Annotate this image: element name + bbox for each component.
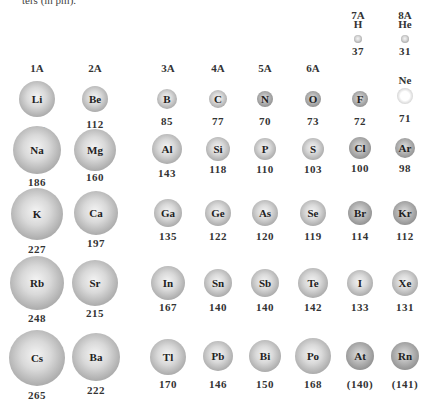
atomic-radius: 170 bbox=[159, 378, 177, 390]
atom-sphere: Xe bbox=[392, 270, 418, 296]
atom-sphere: Al bbox=[152, 134, 182, 164]
atom-sphere: Pb bbox=[203, 341, 233, 371]
caption-text: ters (in pm). bbox=[22, 0, 76, 6]
element-symbol: He bbox=[398, 18, 411, 30]
atom-sphere: Kr bbox=[393, 201, 417, 225]
atom-sphere: Rb bbox=[10, 256, 64, 310]
atom-sphere: Br bbox=[348, 201, 372, 225]
atom-sphere bbox=[401, 35, 409, 43]
atomic-radius: 135 bbox=[159, 230, 177, 242]
atomic-radius: (140) bbox=[347, 378, 373, 390]
atomic-radius: 85 bbox=[161, 115, 173, 127]
atomic-radius: 77 bbox=[212, 115, 224, 127]
atomic-radius: 119 bbox=[304, 230, 321, 242]
atomic-radius: 140 bbox=[209, 301, 227, 313]
atomic-radius: 133 bbox=[351, 301, 369, 313]
atomic-radius: 70 bbox=[259, 115, 271, 127]
atomic-radius: 72 bbox=[354, 115, 366, 127]
atomic-radius: 222 bbox=[87, 384, 105, 396]
atomic-radius: 167 bbox=[159, 301, 177, 313]
atom-sphere: Ga bbox=[154, 199, 182, 227]
atom-sphere: Li bbox=[19, 81, 55, 117]
atom-sphere: C bbox=[209, 90, 227, 108]
atom-sphere: As bbox=[252, 200, 278, 226]
atom-sphere: F bbox=[352, 91, 368, 107]
atom-sphere: Be bbox=[82, 86, 108, 112]
atom-sphere: Si bbox=[206, 137, 230, 161]
atomic-radius: 122 bbox=[209, 230, 227, 242]
group-label: 1A bbox=[30, 62, 43, 74]
atom-sphere: Na bbox=[13, 126, 61, 174]
atomic-radius: 120 bbox=[256, 230, 274, 242]
atomic-radius: 215 bbox=[86, 307, 104, 319]
atomic-radius: 197 bbox=[87, 237, 105, 249]
atom-sphere: K bbox=[11, 188, 63, 240]
atom-sphere: In bbox=[151, 266, 185, 300]
atomic-radius: 227 bbox=[28, 243, 46, 255]
atomic-radius: 73 bbox=[307, 115, 319, 127]
atomic-radius: 100 bbox=[351, 162, 369, 174]
atomic-radius: 140 bbox=[256, 301, 274, 313]
group-label: 4A bbox=[211, 62, 224, 74]
atom-sphere: Bi bbox=[249, 340, 281, 372]
atomic-radius: 103 bbox=[304, 163, 322, 175]
atom-sphere: I bbox=[347, 270, 373, 296]
atomic-radius: 31 bbox=[399, 45, 411, 57]
atom-sphere: At bbox=[346, 342, 374, 370]
atom-sphere: Cs bbox=[9, 330, 65, 386]
group-label: 6A bbox=[306, 62, 319, 74]
group-label: 5A bbox=[258, 62, 271, 74]
atomic-radius: 142 bbox=[304, 301, 322, 313]
atomic-radius: 118 bbox=[209, 163, 226, 175]
atom-sphere: Te bbox=[298, 268, 328, 298]
atom-sphere: Mg bbox=[74, 129, 116, 171]
atom-sphere: Sr bbox=[72, 260, 118, 306]
atomic-radius: 186 bbox=[28, 176, 46, 188]
atomic-radius: 114 bbox=[351, 230, 368, 242]
atomic-radius: 146 bbox=[209, 378, 227, 390]
atomic-radius: 160 bbox=[86, 171, 104, 183]
atom-sphere: Sb bbox=[251, 269, 279, 297]
atomic-radius: 112 bbox=[396, 230, 413, 242]
atom-sphere: N bbox=[257, 91, 273, 107]
atomic-radius: (141) bbox=[392, 378, 418, 390]
atomic-radius: 71 bbox=[399, 112, 411, 124]
group-label: 3A bbox=[161, 62, 174, 74]
element-symbol: H bbox=[354, 18, 363, 30]
atom-sphere bbox=[397, 88, 413, 104]
atom-sphere: B bbox=[157, 89, 177, 109]
atomic-radius: 143 bbox=[158, 167, 176, 179]
atom-sphere: O bbox=[305, 91, 321, 107]
atom-sphere bbox=[354, 35, 362, 43]
atom-sphere: Ba bbox=[72, 333, 120, 381]
atom-sphere: Ge bbox=[205, 200, 231, 226]
atomic-radius: 168 bbox=[304, 378, 322, 390]
atom-sphere: Po bbox=[295, 338, 331, 374]
atomic-radius: 265 bbox=[28, 389, 46, 401]
atom-sphere: Ar bbox=[395, 138, 415, 158]
group-label: 2A bbox=[88, 62, 101, 74]
element-symbol: Ne bbox=[399, 74, 412, 86]
atomic-radius: 37 bbox=[352, 45, 364, 57]
atom-sphere: S bbox=[302, 138, 324, 160]
atom-sphere: Se bbox=[300, 200, 326, 226]
atom-sphere: Rn bbox=[391, 342, 419, 370]
atomic-radius: 248 bbox=[28, 312, 46, 324]
atom-sphere: Tl bbox=[150, 339, 186, 375]
atomic-radius: 131 bbox=[396, 301, 414, 313]
atom-sphere: P bbox=[254, 138, 276, 160]
atom-sphere: Cl bbox=[349, 137, 371, 159]
atomic-radius: 110 bbox=[256, 163, 273, 175]
atomic-radius: 150 bbox=[256, 378, 274, 390]
atom-sphere: Ca bbox=[74, 191, 118, 235]
atomic-radius: 98 bbox=[399, 162, 411, 174]
atom-sphere: Sn bbox=[204, 269, 232, 297]
